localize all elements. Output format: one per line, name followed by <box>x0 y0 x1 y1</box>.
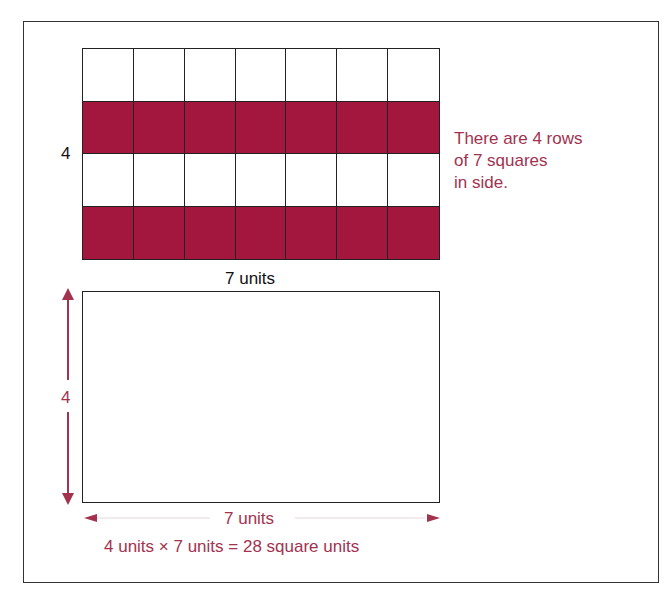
rect-width-label: 7 units <box>224 509 274 529</box>
dimension-arrows <box>0 0 667 600</box>
rect-height-label: 4 <box>61 388 70 408</box>
area-formula: 4 units × 7 units = 28 square units <box>104 537 359 557</box>
